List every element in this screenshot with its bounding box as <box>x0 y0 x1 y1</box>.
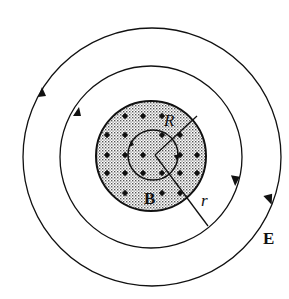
label-E: E <box>263 229 274 248</box>
label-r: r <box>201 191 208 210</box>
label-B: B <box>144 189 155 208</box>
diagram-canvas: R r B E <box>0 0 289 299</box>
label-R: R <box>163 111 175 130</box>
field-diagram: R r B E <box>0 0 289 299</box>
